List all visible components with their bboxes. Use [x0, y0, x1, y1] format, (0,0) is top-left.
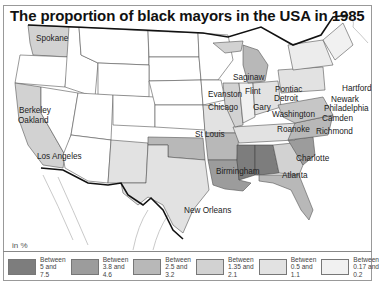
legend-label: 5 and — [40, 263, 66, 271]
legend-label: 7.5 — [40, 271, 66, 279]
city-camden: Camden — [322, 115, 353, 123]
legend-label: 0.5 and — [291, 263, 317, 271]
legend-swatch — [259, 259, 287, 275]
city-birmingham: Birmingham — [216, 168, 260, 176]
unit-label: in % — [12, 241, 28, 250]
city-gary: Gary — [253, 104, 271, 112]
legend-label: Between — [291, 256, 317, 264]
city-evanston: Evanston — [208, 91, 242, 99]
city-berkeley: Berkeley — [19, 107, 51, 115]
city-spokane: Spokane — [36, 35, 68, 43]
legend-label: Between — [228, 256, 254, 264]
city-new-orleans: New Orleans — [184, 207, 231, 215]
legend-swatch — [8, 259, 36, 275]
legend-swatch — [71, 259, 99, 275]
legend-label: 0.17 and — [353, 263, 379, 271]
legend-item: Between0.5 and1.1 — [254, 252, 317, 282]
city-roanoke: Roanoke — [277, 126, 310, 134]
state-florida — [259, 175, 313, 220]
city-detroit: Detroit — [274, 95, 298, 103]
legend-label: Between — [40, 256, 66, 264]
city-pontiac: Pontiac — [275, 86, 302, 94]
legend-item: Between3.8 and4.6 — [66, 252, 129, 282]
map-title: The proportion of black mayors in the US… — [10, 7, 365, 24]
city-flint: Flint — [245, 88, 260, 96]
city-hartford: Hartford — [342, 85, 372, 93]
legend-swatch — [133, 259, 161, 275]
legend-label: Between — [353, 256, 379, 264]
city-atlanta: Atlanta — [282, 172, 308, 180]
legend-item: Between2.5 and3.2 — [128, 252, 191, 282]
city-oakland: Oakland — [18, 117, 49, 125]
city-charlotte: Charlotte — [296, 155, 329, 163]
legend-label: 4.6 — [103, 271, 129, 279]
legend-label: 2.1 — [228, 271, 254, 279]
legend-item: Between0.17 and0.2 — [316, 252, 379, 282]
legend-label: 0.2 — [353, 271, 379, 279]
legend-label: 3.2 — [165, 271, 191, 279]
legend-label: Between — [165, 256, 191, 264]
legend: Between5 and7.5 Between3.8 and4.6 Betwee… — [3, 251, 372, 282]
legend-label: 2.5 and — [165, 263, 191, 271]
city-chicago: Chicago — [208, 104, 238, 112]
city-richmond: Richmond — [316, 128, 353, 136]
city-los-angeles: Los Angeles — [37, 153, 82, 161]
city-saginaw: Saginaw — [233, 74, 264, 82]
city-st-louis: St Louis — [195, 131, 225, 139]
legend-label: 3.8 and — [103, 263, 129, 271]
city-newark: Newark — [331, 96, 359, 104]
legend-label: Between — [103, 256, 129, 264]
city-washington: Washington — [272, 111, 315, 119]
legend-swatch — [321, 259, 349, 275]
legend-item: Between5 and7.5 — [3, 252, 66, 282]
legend-label: 1.35 and — [228, 263, 254, 271]
city-philadelphia: Philadelphia — [324, 105, 369, 113]
legend-label: 1.1 — [291, 271, 317, 279]
legend-item: Between1.35 and2.1 — [191, 252, 254, 282]
state-new-mexico — [108, 140, 148, 183]
legend-swatch — [196, 259, 224, 275]
